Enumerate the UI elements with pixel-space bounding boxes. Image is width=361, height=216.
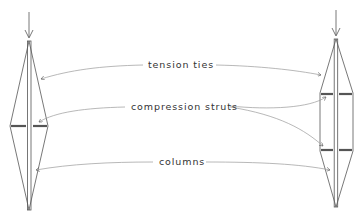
truss-diagram: tension ties compression struts columns (0, 0, 361, 216)
label-columns: columns (159, 156, 205, 167)
label-compression-struts: compression struts (131, 101, 238, 112)
column-right (334, 39, 338, 207)
tension-ties-right (320, 39, 353, 207)
label-tension-ties: tension ties (148, 59, 214, 70)
right-truss (320, 10, 353, 207)
leader-lines (36, 65, 330, 170)
column-left (28, 41, 32, 210)
left-truss (10, 12, 48, 210)
